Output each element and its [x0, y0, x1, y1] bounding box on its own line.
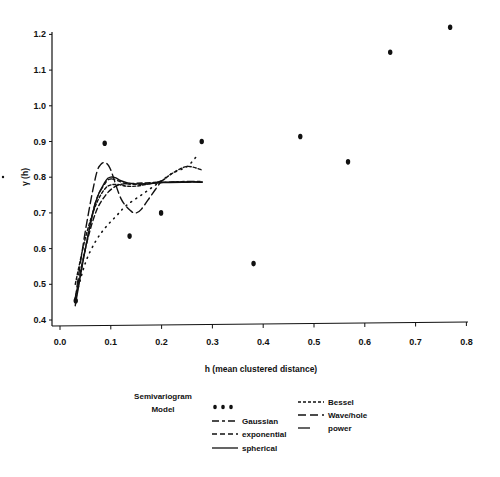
legend: Semivariogram Model Gaussianexponentials… [134, 392, 368, 453]
x-tick-label: 0.5 [308, 337, 321, 347]
legend-label: Gaussian [242, 417, 278, 426]
legend-item-exponential: exponential [212, 430, 286, 439]
y-tick-label: 0.8 [33, 172, 46, 182]
semivariogram-chart: 0.40.50.60.70.80.91.01.11.2 0.00.10.20.3… [0, 0, 500, 477]
legend-item-bessel: Bessel [298, 398, 354, 407]
artifact-dot [2, 176, 4, 178]
legend-title: Semivariogram [134, 392, 192, 401]
x-tick-label: 0.7 [409, 337, 422, 347]
legend-title-line2: Model [151, 405, 174, 414]
y-tick-label: 0.4 [33, 315, 46, 325]
legend-item-wave-hole: Wave/hole [298, 411, 368, 420]
data-point [127, 233, 131, 239]
legend-item-gaussian: Gaussian [212, 417, 278, 426]
y-tick-label: 0.7 [33, 208, 46, 218]
data-point [200, 139, 204, 145]
y-tick-label: 1.1 [33, 65, 46, 75]
legend-label: exponential [242, 430, 286, 439]
legend-item-spherical: spherical [212, 444, 277, 453]
data-point [159, 210, 163, 216]
y-tick-label: 1.2 [33, 29, 46, 39]
data-point [298, 134, 302, 140]
data-point [388, 49, 392, 55]
y-tick-label: 0.6 [33, 244, 46, 254]
legend-label: spherical [242, 444, 277, 453]
y-axis: 0.40.50.60.70.80.91.01.11.2 [33, 29, 52, 326]
y-tick-label: 0.5 [33, 279, 46, 289]
series-gaussian [75, 179, 202, 302]
series-observed [74, 24, 453, 303]
legend-label: Wave/hole [328, 411, 368, 420]
data-point [346, 159, 350, 165]
legend-label: power [328, 424, 352, 433]
y-tick-label: 0.9 [33, 137, 46, 147]
y-tick-label: 1.0 [33, 101, 46, 111]
x-tick-label: 0.0 [54, 337, 67, 347]
legend-item-power: power [298, 424, 352, 433]
series-spherical [75, 177, 202, 306]
legend-item-observed [213, 405, 233, 410]
series-power [75, 156, 197, 299]
series-exponential [75, 182, 202, 299]
data-point [103, 140, 107, 146]
x-axis: 0.00.10.20.30.40.50.60.70.8 [52, 322, 473, 347]
data-point [448, 24, 452, 30]
plot-area [74, 24, 453, 305]
x-tick-label: 0.8 [460, 337, 473, 347]
x-tick-label: 0.1 [105, 337, 118, 347]
x-tick-label: 0.6 [359, 337, 372, 347]
x-tick-label: 0.4 [257, 337, 270, 347]
x-axis-title: h (mean clustered distance) [205, 364, 318, 374]
x-tick-label: 0.2 [155, 337, 168, 347]
y-axis-title: γ (h) [20, 168, 30, 186]
legend-label: Bessel [328, 398, 354, 407]
data-point [251, 261, 255, 267]
x-tick-label: 0.3 [206, 337, 219, 347]
